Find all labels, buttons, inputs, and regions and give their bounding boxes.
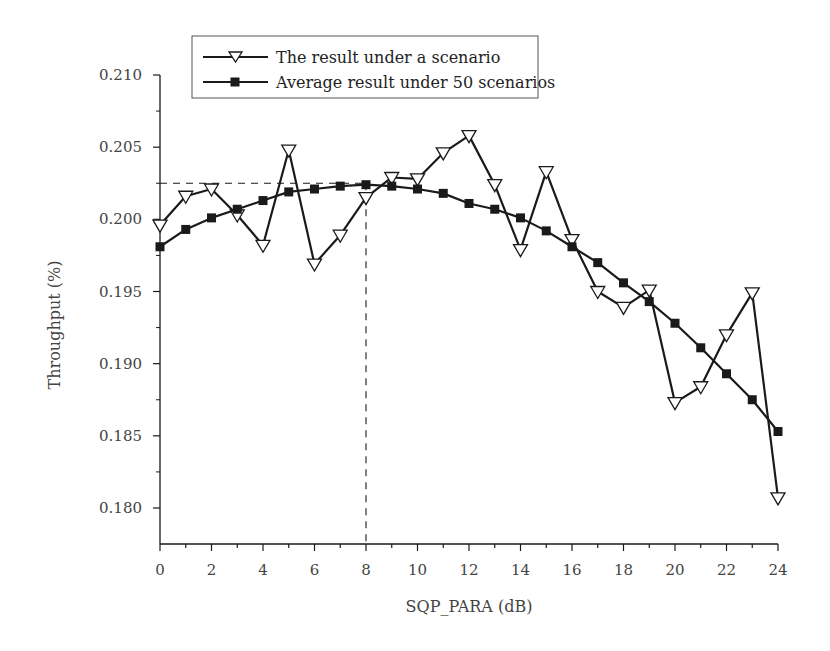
x-tick-label: 16 xyxy=(562,561,581,579)
data-point xyxy=(542,226,551,235)
x-tick-label: 2 xyxy=(207,561,217,579)
axes: 0.1800.1850.1900.1950.2000.2050.21002468… xyxy=(99,66,788,579)
x-tick-label: 20 xyxy=(665,561,684,579)
x-tick-label: 0 xyxy=(155,561,165,579)
data-point xyxy=(387,182,396,191)
data-point xyxy=(362,180,371,189)
data-point xyxy=(156,242,165,251)
y-axis-title: Throughput (%) xyxy=(45,261,64,390)
y-tick-label: 0.210 xyxy=(99,66,142,84)
data-point xyxy=(284,187,293,196)
data-point xyxy=(774,427,783,436)
y-tick-label: 0.195 xyxy=(99,283,142,301)
data-point xyxy=(771,493,785,505)
data-point xyxy=(465,199,474,208)
data-point xyxy=(748,395,757,404)
data-point xyxy=(308,259,322,271)
data-point xyxy=(745,288,759,300)
data-point xyxy=(593,258,602,267)
data-point xyxy=(439,189,448,198)
legend-label: The result under a scenario xyxy=(276,48,500,67)
data-point xyxy=(282,145,296,157)
y-tick-label: 0.190 xyxy=(99,355,142,373)
data-point xyxy=(694,382,708,394)
x-tick-label: 4 xyxy=(258,561,268,579)
y-tick-label: 0.200 xyxy=(99,210,142,228)
data-point xyxy=(233,205,242,214)
x-tick-label: 14 xyxy=(511,561,530,579)
data-point xyxy=(568,242,577,251)
data-point xyxy=(722,369,731,378)
series-layer xyxy=(153,131,785,505)
data-point xyxy=(671,319,680,328)
x-tick-label: 22 xyxy=(717,561,736,579)
filled-square-icon xyxy=(231,78,240,87)
data-point xyxy=(516,213,525,222)
x-tick-label: 6 xyxy=(310,561,320,579)
data-point xyxy=(153,220,167,232)
data-point xyxy=(310,185,319,194)
data-point xyxy=(462,131,476,143)
data-point xyxy=(720,330,734,342)
data-point xyxy=(256,240,270,252)
throughput-chart: 0.1800.1850.1900.1950.2000.2050.21002468… xyxy=(0,0,830,651)
data-point xyxy=(539,167,553,179)
reference-lines xyxy=(160,183,366,544)
series-scenario xyxy=(153,131,785,505)
y-tick-label: 0.205 xyxy=(99,138,142,156)
x-axis-title: SQP_PARA (dB) xyxy=(406,597,533,616)
data-point xyxy=(411,174,425,186)
y-tick-label: 0.180 xyxy=(99,499,142,517)
data-point xyxy=(617,302,631,314)
data-point xyxy=(413,185,422,194)
data-point xyxy=(645,297,654,306)
y-tick-label: 0.185 xyxy=(99,427,142,445)
x-tick-label: 24 xyxy=(768,561,787,579)
data-point xyxy=(207,213,216,222)
data-point xyxy=(668,398,682,410)
x-tick-label: 8 xyxy=(361,561,371,579)
data-point xyxy=(642,285,656,297)
legend: The result under a scenario Average resu… xyxy=(192,36,555,98)
data-point xyxy=(591,287,605,299)
data-point xyxy=(336,182,345,191)
data-point xyxy=(696,343,705,352)
data-point xyxy=(259,196,268,205)
data-point xyxy=(514,245,528,257)
legend-label: Average result under 50 scenarios xyxy=(275,73,555,92)
data-point xyxy=(181,225,190,234)
x-tick-label: 12 xyxy=(459,561,478,579)
x-tick-label: 10 xyxy=(408,561,427,579)
data-point xyxy=(488,180,502,192)
data-point xyxy=(490,205,499,214)
x-tick-label: 18 xyxy=(614,561,633,579)
data-point xyxy=(619,278,628,287)
series-average xyxy=(156,180,783,436)
